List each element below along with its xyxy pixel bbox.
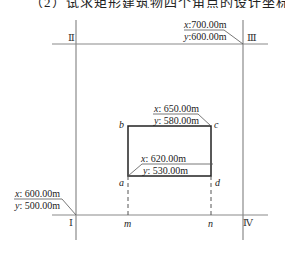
- y-value: 600.00m: [191, 31, 226, 42]
- corner-a-y-coordinate: y: 530.00m: [143, 165, 188, 176]
- y-value: 530.00m: [153, 165, 188, 176]
- corner-c-label: c: [214, 120, 218, 130]
- x-symbol: x: [15, 188, 19, 199]
- control-point-II-label: Ⅱ: [68, 33, 75, 43]
- control-point-I-y-coordinate: y: 500.00m: [15, 200, 60, 211]
- corner-c-x-coordinate: x: 650.00m: [154, 103, 199, 114]
- x-value: 700.00m: [191, 19, 226, 30]
- x-value: 600.00m: [25, 188, 60, 199]
- corner-a-label: a: [119, 178, 124, 188]
- projection-point-m-label: m: [124, 219, 131, 229]
- control-point-I-x-coordinate: x: 600.00m: [15, 188, 60, 199]
- projection-point-n-label: n: [208, 219, 213, 229]
- x-symbol: x: [154, 103, 158, 114]
- y-value: 500.00m: [25, 200, 60, 211]
- x-symbol: x: [184, 19, 188, 30]
- x-symbol: x: [141, 153, 145, 164]
- y-symbol: y: [154, 115, 158, 126]
- control-point-III-label: Ⅲ: [247, 33, 257, 43]
- x-value: 620.00m: [151, 153, 186, 164]
- y-symbol: y: [184, 31, 188, 42]
- corner-d-label: d: [215, 178, 220, 188]
- control-point-IV-label: Ⅳ: [243, 218, 253, 228]
- y-symbol: y: [15, 200, 19, 211]
- corner-b-label: b: [119, 120, 124, 130]
- y-symbol: y: [143, 165, 147, 176]
- control-point-I-label: Ⅰ: [69, 218, 73, 228]
- corner-c-y-coordinate: y: 580.00m: [154, 115, 199, 126]
- y-value: 580.00m: [164, 115, 199, 126]
- corner-a-x-coordinate: x: 620.00m: [141, 153, 186, 164]
- site-plan-diagram: [0, 0, 285, 254]
- x-value: 650.00m: [164, 103, 199, 114]
- control-point-III-x-coordinate: x:700.00m: [184, 19, 227, 30]
- control-point-III-y-coordinate: y:600.00m: [184, 31, 227, 42]
